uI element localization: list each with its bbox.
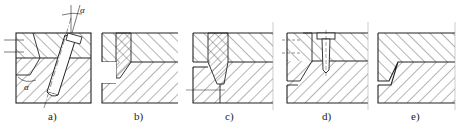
panel-label-a: a) (48, 110, 57, 122)
angle-annotation-top (62, 5, 82, 33)
svg-text:α: α (24, 82, 29, 92)
panel-e (378, 22, 455, 110)
panel-label-e: e) (411, 110, 420, 122)
panel-a: α α (4, 5, 91, 108)
panel-label-b: b) (134, 110, 143, 122)
svg-text:α: α (80, 5, 85, 15)
figure-caption-clipped: · · · · · · · (250, 132, 314, 137)
panel-b (102, 33, 178, 103)
panel-label-c: c) (225, 110, 234, 122)
panel-c (186, 22, 273, 110)
panel-d (282, 22, 368, 110)
panel-label-d: d) (322, 110, 331, 122)
